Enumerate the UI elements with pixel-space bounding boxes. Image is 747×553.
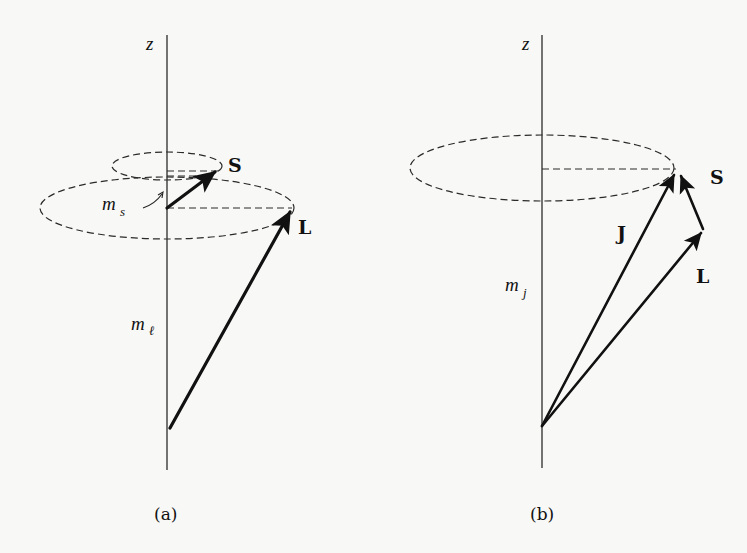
svg-text:j: j — [521, 285, 527, 300]
svg-text:m: m — [505, 274, 519, 295]
svg-text:m: m — [102, 193, 116, 214]
m-s-label: m s — [102, 192, 163, 219]
svg-text:ℓ: ℓ — [149, 323, 155, 338]
m-j-label: m j — [505, 274, 527, 300]
s-vector-label-a: S — [228, 154, 242, 176]
m-s-pointer-arrow — [143, 194, 162, 208]
svg-text:s: s — [120, 204, 125, 219]
caption-a: (a) — [154, 504, 177, 524]
caption-b: (b) — [530, 504, 554, 524]
z-axis-label-a: z — [145, 33, 154, 54]
panel-a: z S L m s m ℓ (a) — [40, 33, 311, 524]
l-vector-label-a: L — [298, 216, 311, 238]
panel-b: z J L S m j (b) — [410, 33, 724, 524]
svg-text:m: m — [131, 313, 145, 334]
m-l-label: m ℓ — [131, 313, 155, 338]
l-vector-a — [170, 212, 290, 428]
s-vector-label-b: S — [710, 166, 724, 188]
l-vector-b — [542, 233, 701, 426]
j-vector-b — [542, 175, 674, 426]
j-vector-label-b: J — [615, 222, 626, 244]
z-axis-label-b: z — [521, 33, 530, 54]
l-vector-label-b: L — [696, 265, 709, 287]
angular-momentum-coupling-figure: z S L m s m ℓ (a) z — [0, 0, 747, 553]
s-vector-b — [681, 176, 703, 229]
